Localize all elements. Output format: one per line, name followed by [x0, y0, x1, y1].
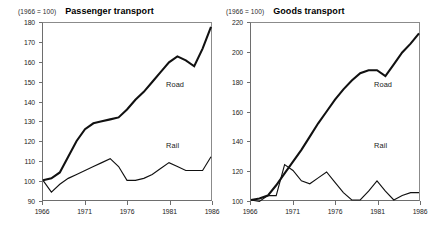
y-tickmark	[247, 52, 251, 53]
y-tickmark	[247, 112, 251, 113]
x-tick-label: 1981	[162, 208, 177, 215]
y-tick-label: 160	[218, 108, 243, 115]
plot-lines-goods	[251, 23, 419, 200]
base-note-passenger: (1966 = 100)	[18, 8, 56, 15]
y-tickmark	[39, 82, 43, 83]
y-tickmark	[39, 161, 43, 162]
y-tick-label: 120	[10, 138, 35, 145]
y-tick-label: 160	[10, 58, 35, 65]
x-tick-label: 1976	[120, 208, 135, 215]
y-tickmark	[39, 121, 43, 122]
series-label-road-goods: Road	[374, 80, 392, 89]
chart-panel-passenger: (1966 = 100) Passenger transport 9010011…	[0, 0, 222, 229]
y-tickmark	[39, 22, 43, 23]
x-tickmark	[420, 201, 421, 205]
y-tick-label: 110	[10, 158, 35, 165]
series-line-road-goods	[251, 33, 419, 200]
x-tickmark	[250, 201, 251, 205]
plot-lines-passenger	[43, 23, 211, 200]
y-tick-label: 150	[10, 78, 35, 85]
y-tick-label: 140	[10, 98, 35, 105]
y-tick-label: 220	[218, 19, 243, 26]
y-tick-label: 90	[10, 198, 35, 205]
panel-header-passenger: (1966 = 100) Passenger transport	[18, 6, 154, 16]
y-tick-label: 180	[218, 78, 243, 85]
y-tickmark	[39, 62, 43, 63]
series-label-rail-goods: Rail	[374, 141, 387, 150]
x-tickmark	[85, 201, 86, 205]
x-tick-label: 1986	[205, 208, 220, 215]
x-tick-label: 1966	[243, 208, 258, 215]
series-label-road-passenger: Road	[166, 80, 184, 89]
panel-title-passenger: Passenger transport	[65, 6, 153, 16]
x-tick-label: 1986	[413, 208, 428, 215]
chart-panel-goods: (1966 = 100) Goods transport 10012014016…	[222, 0, 445, 229]
series-label-rail-passenger: Rail	[166, 141, 179, 150]
transport-charts-figure: (1966 = 100) Passenger transport 9010011…	[0, 0, 445, 229]
y-tickmark	[247, 141, 251, 142]
series-line-rail-passenger	[43, 157, 211, 192]
x-tick-label: 1981	[370, 208, 385, 215]
y-tick-label: 120	[218, 168, 243, 175]
x-tick-label: 1971	[285, 208, 300, 215]
x-tick-label: 1966	[35, 208, 50, 215]
y-tickmark	[247, 171, 251, 172]
y-tickmark	[247, 22, 251, 23]
x-tickmark	[127, 201, 128, 205]
y-tick-label: 170	[10, 38, 35, 45]
y-tickmark	[39, 141, 43, 142]
x-tick-label: 1976	[328, 208, 343, 215]
plot-area-passenger	[42, 22, 212, 201]
y-tickmark	[39, 102, 43, 103]
base-note-goods: (1966 = 100)	[226, 8, 264, 15]
x-tickmark	[170, 201, 171, 205]
y-tickmark	[39, 181, 43, 182]
series-line-road-passenger	[43, 27, 211, 180]
panel-header-goods: (1966 = 100) Goods transport	[226, 6, 345, 16]
y-tickmark	[39, 42, 43, 43]
series-line-rail-goods	[251, 165, 419, 202]
y-tick-label: 200	[218, 48, 243, 55]
y-tick-label: 100	[10, 178, 35, 185]
panel-title-goods: Goods transport	[273, 6, 344, 16]
x-tickmark	[335, 201, 336, 205]
x-tickmark	[378, 201, 379, 205]
y-tick-label: 140	[218, 138, 243, 145]
y-tick-label: 100	[218, 198, 243, 205]
y-tickmark	[247, 82, 251, 83]
x-tickmark	[212, 201, 213, 205]
x-tick-label: 1971	[77, 208, 92, 215]
x-tickmark	[293, 201, 294, 205]
plot-area-goods	[250, 22, 420, 201]
y-tick-label: 130	[10, 118, 35, 125]
y-tick-label: 180	[10, 19, 35, 26]
x-tickmark	[42, 201, 43, 205]
